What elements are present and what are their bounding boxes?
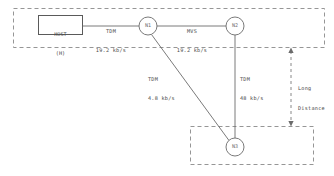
- node-n1-label: N1: [138, 23, 158, 29]
- link-n1-n2-rate: 19.2 kb/s: [158, 47, 226, 54]
- link-n2-n3-protocol: TDM: [240, 76, 284, 83]
- link-host-n1-protocol: TDM: [83, 28, 139, 35]
- host-label-line2: (H): [39, 50, 83, 56]
- node-n2-label: N2: [225, 23, 245, 29]
- host-label: HOST (H): [39, 18, 83, 69]
- link-n1-n3-protocol: TDM: [148, 76, 194, 83]
- network-topology-diagram: HOST (H) N1 N2 N3 TDM 19.2 kb/s MVS 19.2…: [0, 0, 334, 176]
- link-host-n1-rate: 19.2 kb/s: [83, 47, 139, 54]
- link-n1-n2-protocol: MVS: [158, 28, 226, 35]
- link-n2-n3-label: TDM 48 kb/s: [240, 63, 284, 116]
- long-distance-line1: Long: [298, 85, 334, 92]
- link-host-n1-label: TDM 19.2 kb/s: [83, 15, 139, 68]
- host-label-line1: HOST: [39, 31, 83, 37]
- link-n1-n3-rate: 4.8 kb/s: [148, 95, 194, 102]
- link-n1-n2-label: MVS 19.2 kb/s: [158, 15, 226, 68]
- link-n1-n3-label: TDM 4.8 kb/s: [148, 63, 194, 116]
- node-n3-label: N3: [225, 144, 245, 150]
- long-distance-arrowhead-down: [288, 121, 293, 127]
- long-distance-annotation: Long Distance: [298, 72, 334, 125]
- link-n2-n3-rate: 48 kb/s: [240, 95, 284, 102]
- long-distance-arrowhead-up: [288, 48, 293, 54]
- lower-site-boundary: [191, 127, 314, 165]
- long-distance-line2: Distance: [298, 105, 334, 112]
